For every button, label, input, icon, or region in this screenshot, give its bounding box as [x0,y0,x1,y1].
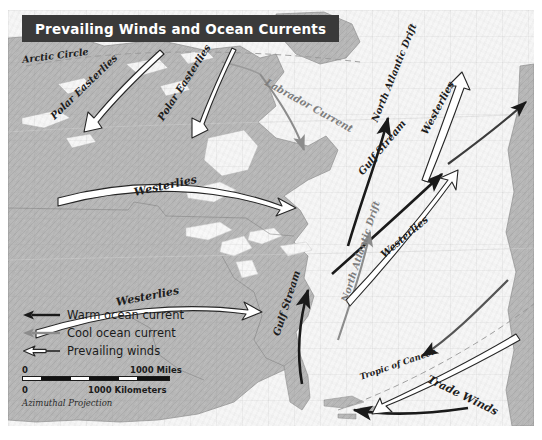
legend-label-cool-current: Cool ocean current [67,326,176,340]
hollow-outline-arrow-icon [22,344,62,358]
prevailing-winds-layer [8,10,534,426]
map-figure: Arctic Circle Tropic of Cancer Polar Eas… [0,0,542,440]
page-title: Prevailing Winds and Ocean Currents [35,21,326,37]
scale-seg-2 [89,377,119,380]
scale-seg-3 [137,377,169,380]
scale-bar: 0 1000 Miles 0 1000 Kilometers [22,365,192,396]
wind-trade-winds [372,334,520,414]
legend-label-warm-current: Warm ocean current [67,308,184,322]
legend-item-warm-current: Warm ocean current [22,306,184,324]
scale-bar-track [22,376,170,381]
scale-km-labels: 0 1000 Kilometers [22,385,192,396]
map-plate: Arctic Circle Tropic of Cancer Polar Eas… [8,10,534,426]
wind-polar-easterlies-1 [84,50,164,132]
map-legend: Warm ocean current Cool ocean current Pr… [22,306,184,360]
legend-item-cool-current: Cool ocean current [22,324,184,342]
scale-bar-graphic [22,376,192,385]
projection-note: Azimuthal Projection [22,398,112,408]
scale-miles-end: 1000 Miles [130,365,182,375]
legend-label-prevailing-winds: Prevailing winds [67,344,160,358]
map-title-bar: Prevailing Winds and Ocean Currents [22,15,339,42]
scale-miles-start: 0 [22,365,28,375]
scale-km-start: 0 [22,385,28,395]
solid-dark-arrow-icon [22,308,62,322]
legend-item-prevailing-winds: Prevailing winds [22,342,184,360]
scale-miles-labels: 0 1000 Miles [22,365,192,376]
scale-seg-1 [41,377,71,380]
scale-km-end: 1000 Kilometers [88,385,167,395]
solid-gray-arrow-icon [22,326,62,340]
